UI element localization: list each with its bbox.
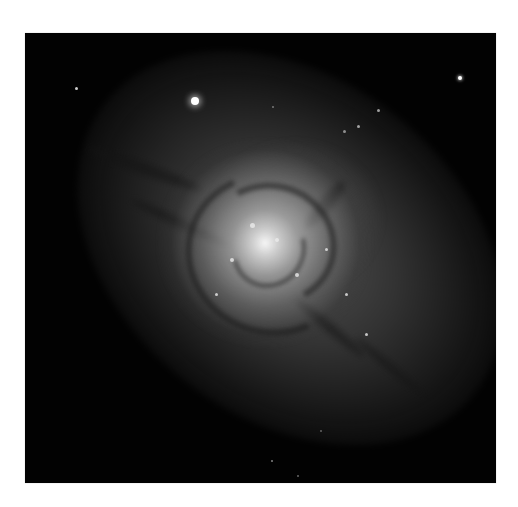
star [458, 76, 462, 80]
star-knot [345, 293, 348, 296]
star [272, 106, 274, 108]
star [271, 460, 273, 462]
star-knot [325, 248, 328, 251]
star [343, 130, 346, 133]
star-knot [215, 293, 218, 296]
star-knot [275, 238, 279, 242]
star-knot [295, 273, 299, 277]
star [297, 475, 299, 477]
star-knot [250, 223, 255, 228]
star [377, 109, 380, 112]
star [320, 430, 322, 432]
star-knot [230, 258, 234, 262]
galaxy-photo [25, 33, 496, 483]
star [357, 125, 360, 128]
bright-star [191, 97, 199, 105]
star-knot [365, 333, 368, 336]
star [75, 87, 78, 90]
